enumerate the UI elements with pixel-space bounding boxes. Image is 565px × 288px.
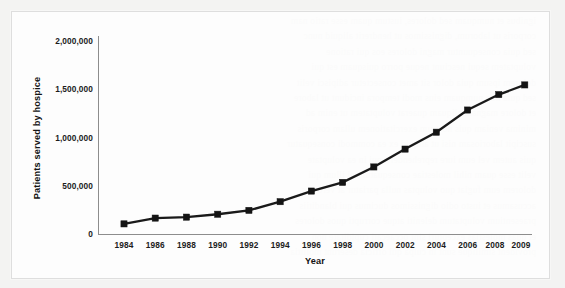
data-point-2000: [371, 164, 377, 170]
y-tick-label-2000000: 2,000,000: [55, 36, 93, 46]
data-point-2009: [522, 82, 528, 88]
chart-canvas: 2,000,000 1,500,000 1,000,000 500,000 0 …: [0, 0, 565, 288]
data-point-2004: [433, 129, 439, 135]
x-tick-label-2000: 2000: [365, 240, 384, 250]
line-chart: 2,000,000 1,500,000 1,000,000 500,000 0 …: [0, 0, 565, 288]
data-point-2006: [464, 107, 470, 113]
x-tick-label-2008: 2008: [486, 240, 505, 250]
data-point-1996: [308, 188, 314, 194]
data-point-1998: [340, 179, 346, 185]
x-tick-label-1994: 1994: [271, 240, 290, 250]
x-tick-label-1992: 1992: [240, 240, 259, 250]
series-line-patients-served: [124, 85, 525, 224]
data-point-1988: [183, 214, 189, 220]
x-axis-title: Year: [305, 256, 325, 266]
x-tick-label-2004: 2004: [427, 240, 446, 250]
y-tick-label-1500000: 1,500,000: [55, 84, 93, 94]
y-tick-label-0: 0: [88, 229, 93, 239]
x-tick-label-2002: 2002: [396, 240, 415, 250]
y-tick-label-500000: 500,000: [62, 181, 93, 191]
data-point-1990: [215, 211, 221, 217]
data-point-2008: [496, 91, 502, 97]
page-background: ignibus et numquam sed dolores, iustum q…: [0, 0, 565, 288]
x-tick-label-2006: 2006: [458, 240, 477, 250]
y-axis-title: Patients served by hospice: [32, 77, 42, 199]
data-point-2002: [402, 146, 408, 152]
x-tick-label-1988: 1988: [177, 240, 196, 250]
x-tick-label-1986: 1986: [146, 240, 165, 250]
x-tick-label-1990: 1990: [208, 240, 227, 250]
x-tick-label-1984: 1984: [115, 240, 134, 250]
data-point-1994: [277, 199, 283, 205]
y-tick-label-1000000: 1,000,000: [55, 133, 93, 143]
x-tick-label-1998: 1998: [333, 240, 352, 250]
data-point-1986: [152, 215, 158, 221]
series-markers-group: [121, 82, 528, 227]
data-point-1984: [121, 221, 127, 227]
x-tick-label-2009: 2009: [512, 240, 531, 250]
data-point-1992: [246, 207, 252, 213]
x-tick-label-1996: 1996: [302, 240, 321, 250]
